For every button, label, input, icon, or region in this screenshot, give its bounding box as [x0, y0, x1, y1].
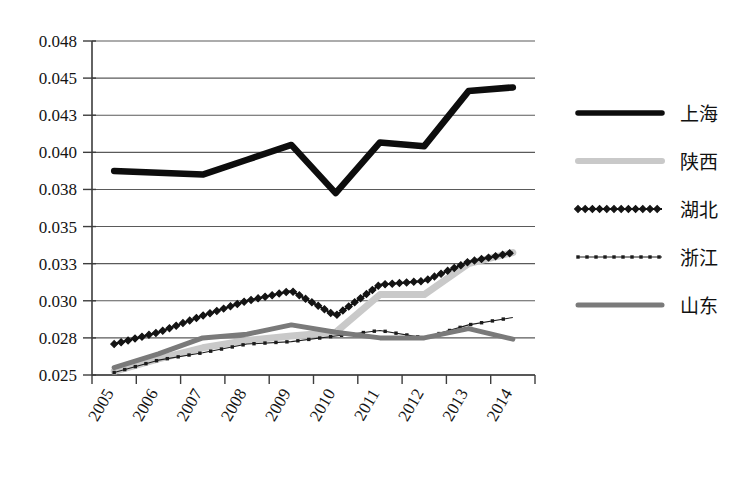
series-marker	[480, 321, 483, 324]
series-marker	[491, 319, 494, 322]
legend-swatch-marker	[639, 255, 642, 258]
y-tick-label: 0.035	[39, 218, 77, 237]
series-marker	[198, 352, 201, 355]
y-tick-label: 0.045	[39, 69, 77, 88]
legend-label: 陕西	[680, 151, 718, 173]
legend-label: 上海	[680, 103, 718, 125]
series-marker	[263, 341, 266, 344]
series-marker	[296, 339, 299, 342]
legend-label: 湖北	[680, 199, 718, 221]
y-tick-label: 0.043	[39, 106, 77, 125]
series-marker	[502, 317, 505, 320]
series-marker	[176, 355, 179, 358]
series-marker	[394, 331, 397, 334]
series-marker	[274, 341, 277, 344]
y-tick-label: 0.048	[39, 32, 77, 51]
chart-canvas: 0.0480.0450.0430.0400.0380.0350.0330.030…	[0, 0, 753, 484]
series-marker	[144, 362, 147, 365]
legend-swatch-marker	[576, 255, 579, 258]
y-tick-label: 0.038	[39, 180, 77, 199]
chart-background	[0, 0, 753, 484]
legend-swatch-marker	[621, 255, 624, 258]
series-marker	[383, 330, 386, 333]
legend-label: 浙江	[680, 247, 718, 269]
series-marker	[285, 340, 288, 343]
legend-swatch-marker	[657, 255, 660, 258]
legend-swatch-marker	[648, 255, 651, 258]
series-marker	[469, 323, 472, 326]
y-tick-label: 0.025	[39, 366, 77, 385]
legend-swatch-marker	[630, 255, 633, 258]
series-marker	[373, 329, 376, 332]
series-marker	[209, 349, 212, 352]
series-marker	[220, 347, 223, 350]
series-marker	[166, 357, 169, 360]
y-tick-label: 0.028	[39, 329, 77, 348]
series-marker	[252, 342, 255, 345]
legend-swatch-marker	[594, 255, 597, 258]
line-chart-figure: 0.0480.0450.0430.0400.0380.0350.0330.030…	[0, 0, 753, 484]
legend-label: 山东	[680, 295, 718, 317]
series-marker	[187, 353, 190, 356]
series-marker	[241, 343, 244, 346]
series-marker	[231, 345, 234, 348]
y-tick-label: 0.040	[39, 143, 77, 162]
legend-swatch-marker	[603, 255, 606, 258]
legend-swatch-marker	[612, 255, 615, 258]
series-marker	[112, 371, 115, 374]
y-tick-label: 0.030	[39, 292, 77, 311]
series-marker	[123, 368, 126, 371]
series-marker	[307, 338, 310, 341]
series-marker	[134, 365, 137, 368]
legend-swatch-marker	[585, 255, 588, 258]
series-marker	[329, 335, 332, 338]
series-marker	[318, 336, 321, 339]
series-marker	[155, 359, 158, 362]
y-tick-label: 0.033	[39, 255, 77, 274]
